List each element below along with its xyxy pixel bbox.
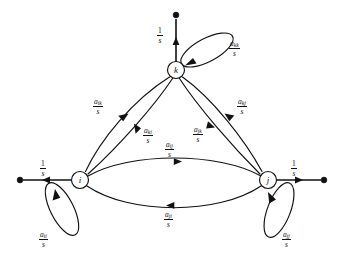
node-i[interactable]: i [72, 172, 89, 189]
arrowhead-jk [206, 121, 215, 128]
signal-flow-graph-diagram: k i j 1 s 1 s 1 s akk s aii s [0, 0, 344, 263]
gain-label-io-k: 1 s [157, 27, 163, 44]
gain-denominator-io-i: s [40, 169, 46, 177]
gain-label-loop-kk: akk s [229, 40, 240, 57]
gain-denominator-loop-ii: s [39, 240, 48, 248]
branch-i-to-k [86, 77, 170, 172]
gain-label-loop-ii: aii s [39, 231, 48, 248]
arrowhead-loop-i [53, 189, 61, 201]
gain-label-branch-ik: aik s [93, 98, 103, 115]
terminal-dot-j [321, 177, 327, 183]
arrowhead-io-j [295, 177, 303, 184]
gain-label-branch-ij: aij s [165, 141, 174, 158]
arrowhead-kj [225, 114, 235, 122]
gain-label-branch-jk: ajk s [193, 126, 203, 143]
gain-numerator-io-k: 1 [157, 27, 163, 36]
io-branch-j [277, 177, 322, 184]
gain-label-io-j: 1 s [291, 160, 297, 177]
gain-denominator-io-k: s [157, 36, 163, 44]
gain-numerator-io-j: 1 [291, 160, 297, 169]
gain-numerator-loop-ii: aii [39, 231, 48, 240]
gain-label-branch-ji: aji s [164, 211, 173, 228]
branch-j-to-i [87, 186, 261, 209]
gain-denominator-branch-ji: s [164, 220, 173, 228]
gain-label-io-i: 1 s [40, 160, 46, 177]
terminal-dot-k [173, 12, 179, 18]
gain-numerator-branch-kj: akj [237, 98, 247, 107]
gain-denominator-branch-ij: s [165, 150, 174, 158]
node-k[interactable]: k [168, 62, 185, 79]
arrowhead-ij [174, 158, 182, 165]
arrowhead-loop-k [185, 58, 197, 66]
gain-numerator-loop-jj: ajj [282, 231, 291, 240]
gain-denominator-branch-jk: s [193, 135, 203, 143]
node-j[interactable]: j [260, 172, 277, 189]
terminal-dot-i [17, 177, 23, 183]
branch-path-jk [180, 79, 261, 175]
branch-j-to-k [180, 79, 261, 175]
node-label-j: j [266, 175, 270, 185]
gain-label-loop-jj: ajj s [282, 231, 291, 248]
io-branch-k [173, 19, 180, 62]
gain-numerator-branch-jk: ajk [193, 126, 203, 135]
gain-denominator-loop-kk: s [229, 49, 240, 57]
gain-denominator-branch-ki: s [143, 136, 153, 144]
arrowhead-io-k [173, 37, 180, 45]
gain-numerator-loop-kk: akk [229, 40, 240, 49]
gain-denominator-loop-jj: s [282, 240, 291, 248]
branch-path-ki [88, 79, 173, 175]
branch-i-to-j [88, 158, 261, 176]
gain-denominator-io-j: s [291, 169, 297, 177]
gain-numerator-branch-ij: aij [165, 141, 174, 150]
gain-denominator-branch-kj: s [237, 107, 247, 115]
gain-label-branch-ki: aki s [143, 127, 153, 144]
gain-numerator-branch-ki: aki [143, 127, 153, 136]
arrowhead-ki [134, 124, 141, 134]
branch-k-to-i [88, 79, 173, 175]
gain-numerator-io-i: 1 [40, 160, 46, 169]
gain-label-branch-kj: akj s [237, 98, 247, 115]
io-branch-i [23, 177, 72, 184]
branch-path-ik [86, 77, 170, 172]
gain-numerator-branch-ik: aik [93, 98, 103, 107]
gain-denominator-branch-ik: s [93, 107, 103, 115]
gain-numerator-branch-ji: aji [164, 211, 173, 220]
